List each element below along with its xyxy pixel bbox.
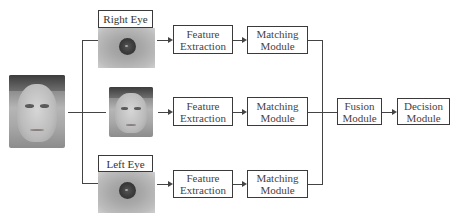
matching-module-box-face: MatchingModule	[247, 97, 308, 126]
connector-r3-c	[308, 184, 323, 185]
feature-extraction-box-right-eye: FeatureExtraction	[173, 25, 233, 54]
source-face-image	[9, 75, 65, 148]
left-eye-image	[98, 172, 155, 213]
fusion-module-box: FusionModule	[337, 98, 382, 125]
right-eye-label: Right Eye	[98, 10, 153, 28]
connector-to-right-eye	[82, 40, 98, 41]
connector-merge-v	[322, 40, 323, 185]
matching-module-box-right-eye: MatchingModule	[247, 26, 308, 54]
feature-extraction-box-face: FeatureExtraction	[173, 97, 233, 126]
connector-source-h	[68, 112, 106, 113]
feature-extraction-box-left-eye: FeatureExtraction	[173, 170, 233, 198]
left-eye-label: Left Eye	[98, 155, 153, 172]
face-crop-image	[109, 87, 153, 137]
matching-module-box-left-eye: MatchingModule	[247, 170, 308, 198]
connector-trunk-v	[82, 40, 83, 183]
right-eye-image	[98, 28, 155, 68]
connector-to-left-eye	[82, 183, 98, 184]
decision-module-box: DecisionModule	[397, 98, 450, 125]
connector-r1-c	[308, 40, 323, 41]
